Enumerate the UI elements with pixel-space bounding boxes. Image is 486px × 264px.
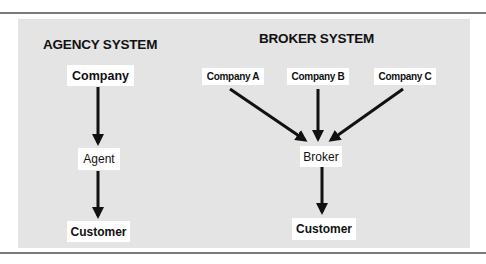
node-agency-customer: Customer	[67, 221, 130, 242]
arrow-company-c-to-broker	[331, 89, 403, 140]
node-company-a: Company A	[202, 68, 264, 85]
arrow-company-a-to-broker	[230, 89, 305, 140]
node-agent: Agent	[78, 148, 120, 170]
node-company-b: Company B	[287, 68, 349, 85]
broker-system-title: BROKER SYSTEM	[259, 31, 374, 46]
node-company-c: Company C	[374, 68, 436, 85]
node-broker: Broker	[300, 146, 342, 167]
agency-system-title: AGENCY SYSTEM	[43, 37, 157, 52]
bottom-rule	[0, 252, 486, 254]
node-broker-customer: Customer	[292, 218, 356, 240]
node-agency-company: Company	[67, 65, 134, 86]
